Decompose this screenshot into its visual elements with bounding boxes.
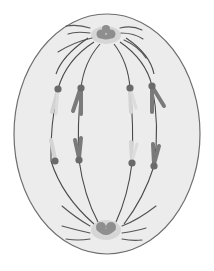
- mitosis-anaphase-illustration: [0, 0, 214, 271]
- anaphase-diagram: [0, 0, 214, 271]
- cell-membrane: [14, 14, 200, 254]
